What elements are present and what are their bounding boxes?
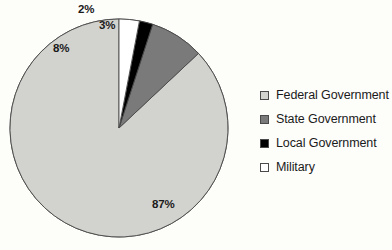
pie-slice-group: [10, 19, 228, 237]
pie-chart-figure: 87% 8% 2% 3% Federal GovernmentState Gov…: [0, 0, 392, 250]
pie-slice-value-state-government: 8%: [53, 43, 69, 55]
legend-item-federal-government[interactable]: Federal Government: [260, 83, 389, 107]
pie-slice-value-federal-government: 87%: [152, 199, 174, 211]
legend-swatch-federal-government: [260, 91, 269, 100]
legend-swatch-military: [260, 163, 269, 172]
legend-label: Military: [276, 160, 315, 174]
chart-legend: Federal GovernmentState GovernmentLocal …: [260, 83, 389, 179]
legend-swatch-local-government: [260, 139, 269, 148]
legend-label: State Government: [276, 112, 376, 126]
pie-slice-value-local-government: 2%: [78, 4, 94, 16]
legend-item-state-government[interactable]: State Government: [260, 107, 389, 131]
legend-swatch-state-government: [260, 115, 269, 124]
legend-label: Local Government: [276, 136, 377, 150]
legend-item-military[interactable]: Military: [260, 155, 389, 179]
legend-label: Federal Government: [276, 88, 389, 102]
legend-item-local-government[interactable]: Local Government: [260, 131, 389, 155]
pie-slice-value-military: 3%: [99, 20, 115, 32]
